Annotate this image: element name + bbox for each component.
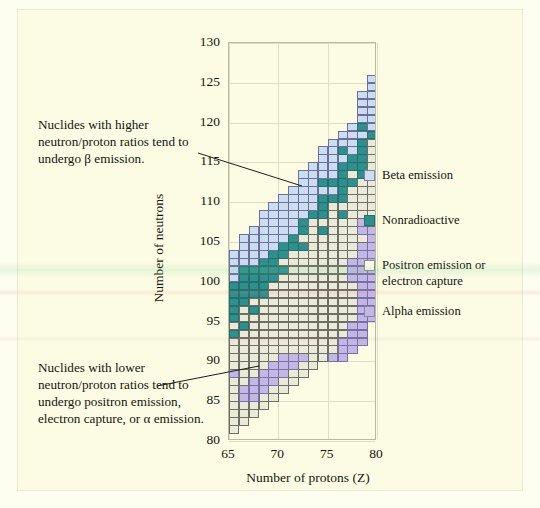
nuclide-cell xyxy=(288,322,298,331)
nuclide-cell xyxy=(347,170,357,179)
nuclide-cell xyxy=(249,282,259,291)
nuclide-cell xyxy=(298,369,308,378)
nuclide-cell xyxy=(288,282,298,291)
nuclide-cell xyxy=(288,369,298,378)
nuclide-cell xyxy=(328,218,338,227)
nuclide-cell xyxy=(328,202,338,211)
nuclide-cell xyxy=(288,314,298,323)
nuclide-cell xyxy=(347,178,357,187)
nuclide-cell xyxy=(308,258,318,267)
nuclide-cell xyxy=(308,186,318,195)
nuclide-cell xyxy=(288,274,298,283)
nuclide-cell xyxy=(347,266,357,275)
nuclide-cell xyxy=(308,298,318,307)
y-tick-label: 105 xyxy=(186,234,220,248)
nuclide-cell xyxy=(249,409,259,418)
nuclide-cell xyxy=(249,401,259,410)
nuclide-cell xyxy=(249,298,259,307)
nuclide-cell xyxy=(367,115,375,124)
nuclide-cell xyxy=(367,99,375,108)
nuclide-cell xyxy=(328,314,338,323)
nuclide-cell xyxy=(249,250,259,259)
nuclide-cell xyxy=(288,361,298,370)
legend-item-alpha[interactable]: Alpha emission xyxy=(364,304,461,320)
nuclide-cell xyxy=(367,154,375,163)
nuclide-cell xyxy=(249,353,259,362)
nuclide-cell xyxy=(268,282,278,291)
nuclide-cell xyxy=(328,139,338,148)
nuclide-cell xyxy=(347,274,357,283)
nuclide-cell xyxy=(357,322,367,331)
nuclide-cell xyxy=(308,282,318,291)
nuclide-cell xyxy=(268,385,278,394)
nuclide-cell xyxy=(268,322,278,331)
nuclide-cell xyxy=(328,234,338,243)
nuclide-cell xyxy=(347,242,357,251)
nuclide-cell xyxy=(308,210,318,219)
nuclide-cell xyxy=(249,369,259,378)
nuclide-cell xyxy=(288,345,298,354)
nuclide-cell xyxy=(268,234,278,243)
nuclide-cell xyxy=(308,345,318,354)
nuclide-cell xyxy=(288,353,298,362)
nuclide-cell xyxy=(308,202,318,211)
nuclide-cell xyxy=(288,377,298,386)
y-tick-label: 125 xyxy=(186,75,220,89)
plot-area xyxy=(228,42,376,440)
y-tick-label: 80 xyxy=(186,433,220,447)
nuclide-cell xyxy=(347,123,357,132)
nuclide-cell xyxy=(288,234,298,243)
nuclide-cell xyxy=(347,258,357,267)
legend-item-beta[interactable]: Beta emission xyxy=(364,168,453,184)
nuclide-cell xyxy=(268,274,278,283)
nuclide-cell xyxy=(288,194,298,203)
nuclide-cell xyxy=(308,306,318,315)
nuclide-cell xyxy=(367,202,375,211)
legend-label: Beta emission xyxy=(382,168,453,184)
nuclide-cell xyxy=(357,330,367,339)
nuclide-cell xyxy=(308,218,318,227)
nuclide-cell xyxy=(328,210,338,219)
nuclide-cell xyxy=(308,290,318,299)
nuclide-cell xyxy=(347,314,357,323)
nuclide-cell xyxy=(288,250,298,259)
nuclide-cell xyxy=(288,298,298,307)
nuclide-cell xyxy=(288,258,298,267)
nuclide-cell xyxy=(249,242,259,251)
nuclide-cell xyxy=(249,258,259,267)
nuclide-cell xyxy=(347,131,357,140)
nuclide-cell xyxy=(239,417,249,426)
nuclide-cell xyxy=(268,353,278,362)
nuclide-cell xyxy=(347,298,357,307)
nuclide-cell xyxy=(288,242,298,251)
nuclide-cell xyxy=(249,345,259,354)
nuclide-cell xyxy=(347,218,357,227)
nuclide-cell xyxy=(308,361,318,370)
nuclide-cell xyxy=(367,107,375,116)
nuclide-cell xyxy=(338,353,348,362)
nuclide-cell xyxy=(268,202,278,211)
nuclide-cell xyxy=(347,330,357,339)
x-tick-label: 70 xyxy=(260,447,294,461)
nuclide-cell xyxy=(268,250,278,259)
nuclide-cell xyxy=(347,202,357,211)
legend-item-stable[interactable]: Nonradioactive xyxy=(364,213,460,229)
nuclide-cell xyxy=(249,385,259,394)
nuclide-cell xyxy=(347,250,357,259)
nuclide-cell xyxy=(268,314,278,323)
nuclide-cell xyxy=(288,306,298,315)
nuclide-cell xyxy=(249,306,259,315)
nuclide-cell xyxy=(288,226,298,235)
nuclide-cell xyxy=(328,274,338,283)
nuclide-cell xyxy=(278,385,288,394)
legend-swatch-positron-icon xyxy=(364,260,375,271)
nuclide-cell xyxy=(308,314,318,323)
nuclide-cell xyxy=(308,226,318,235)
legend-swatch-stable-icon xyxy=(364,215,375,226)
nuclide-cell xyxy=(288,290,298,299)
nuclide-cell xyxy=(367,194,375,203)
legend-item-positron[interactable]: Positron emission or electron capture xyxy=(364,258,486,289)
nuclide-cell xyxy=(268,306,278,315)
nuclide-cell xyxy=(367,91,375,100)
nuclide-cell xyxy=(268,361,278,370)
